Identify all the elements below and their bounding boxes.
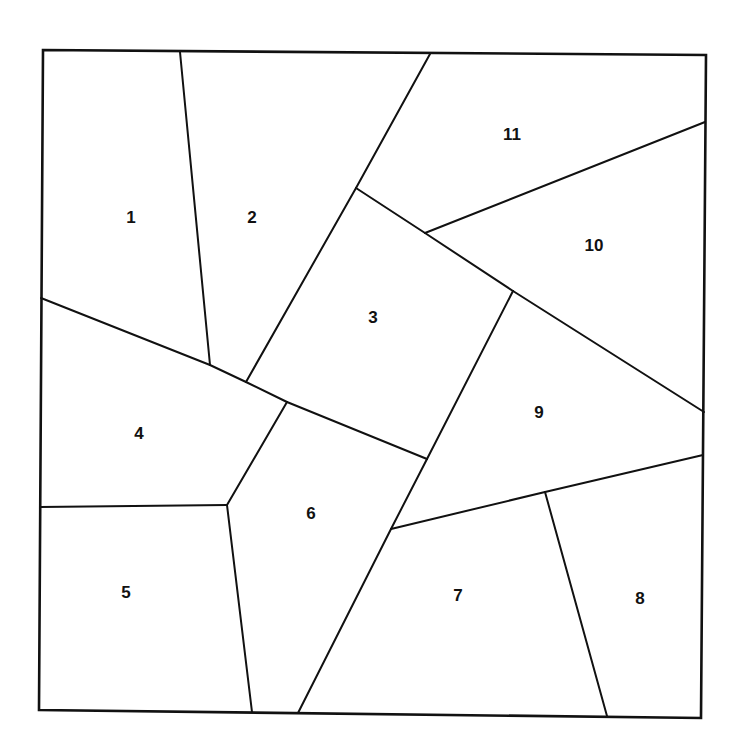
region-label-7: 7 xyxy=(453,587,462,604)
region-label-2: 2 xyxy=(247,209,256,226)
region-label-8: 8 xyxy=(635,590,644,607)
region-label-4: 4 xyxy=(134,425,143,442)
region-label-1: 1 xyxy=(126,209,135,226)
region-label-11: 11 xyxy=(503,126,521,143)
region-label-10: 10 xyxy=(585,237,604,254)
region-label-9: 9 xyxy=(534,404,543,421)
regions-layer xyxy=(39,50,706,718)
region-label-5: 5 xyxy=(121,584,130,601)
region-label-6: 6 xyxy=(306,505,315,522)
region-5 xyxy=(39,505,252,712)
partition-diagram xyxy=(0,0,741,749)
region-label-3: 3 xyxy=(368,309,377,326)
